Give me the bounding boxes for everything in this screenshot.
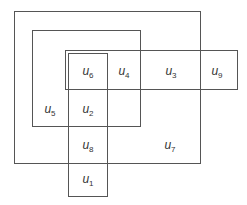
element-base: u <box>82 102 89 116</box>
element-subscript: 1 <box>89 179 93 188</box>
element-u3: u3 <box>165 65 176 80</box>
element-base: u <box>165 64 172 78</box>
element-subscript: 5 <box>51 109 55 118</box>
element-subscript: 3 <box>172 71 176 80</box>
element-base: u <box>211 64 218 78</box>
element-base: u <box>118 64 125 78</box>
element-subscript: 9 <box>218 71 222 80</box>
element-base: u <box>82 64 89 78</box>
element-subscript: 7 <box>171 145 175 154</box>
element-subscript: 2 <box>89 109 93 118</box>
element-base: u <box>164 138 171 152</box>
element-base: u <box>44 102 51 116</box>
set-diagram <box>0 0 247 205</box>
element-u1: u1 <box>82 173 93 188</box>
element-u8: u8 <box>82 139 93 154</box>
element-u5: u5 <box>44 103 55 118</box>
element-subscript: 8 <box>89 145 93 154</box>
element-subscript: 6 <box>89 71 93 80</box>
element-base: u <box>82 172 89 186</box>
element-u4: u4 <box>118 65 129 80</box>
element-subscript: 4 <box>125 71 129 80</box>
element-u2: u2 <box>82 103 93 118</box>
element-u7: u7 <box>164 139 175 154</box>
element-base: u <box>82 138 89 152</box>
element-u6: u6 <box>82 65 93 80</box>
element-u9: u9 <box>211 65 222 80</box>
